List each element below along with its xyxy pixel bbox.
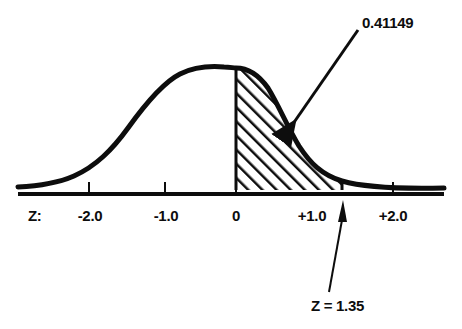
area-label-leader [288,30,358,131]
axis-tick-label-plus-2: +2.0 [363,207,423,224]
z-value-label: Z = 1.35 [311,297,364,314]
axis-tick-label-zero: 0 [206,207,266,224]
axis-tick-label-plus-1: +1.0 [282,207,342,224]
axis-tick-label-minus-2: -2.0 [60,207,120,224]
axis-tick-label-minus-1: -1.0 [136,207,196,224]
axis-name-label: Z: [28,207,42,224]
normal-distribution-figure [0,0,462,329]
normal-curve [18,67,444,189]
area-value-label: 0.41149 [362,14,413,31]
